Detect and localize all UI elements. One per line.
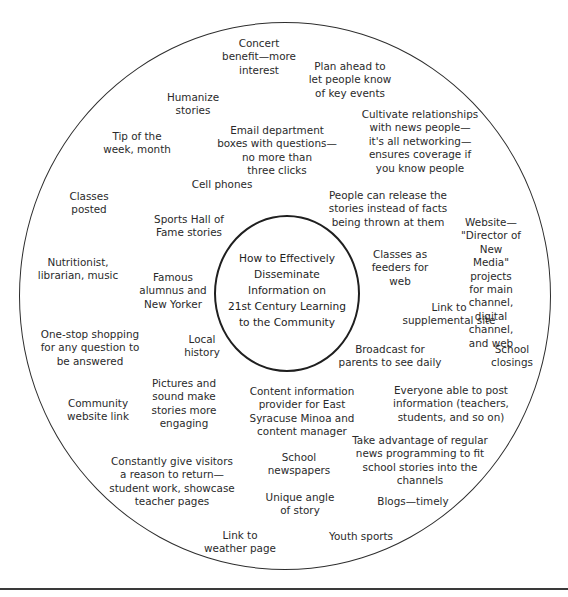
idea-cell-phones: Cell phones bbox=[192, 178, 253, 191]
idea-unique-angle: Unique angle of story bbox=[266, 491, 335, 518]
center-topic: How to Effectively Disseminate Informati… bbox=[214, 250, 360, 330]
idea-one-stop: One-stop shopping for any question to be… bbox=[41, 328, 140, 368]
idea-local-history: Local history bbox=[184, 333, 220, 360]
idea-link-supplemental: Link to supplemental site bbox=[403, 301, 496, 328]
idea-pictures-sound: Pictures and sound make stories more eng… bbox=[151, 377, 216, 431]
idea-everyone-post: Everyone able to post information (teach… bbox=[393, 384, 509, 424]
idea-tip-of-week: Tip of the week, month bbox=[103, 130, 171, 157]
idea-website-director: Website— "Director of New Media" project… bbox=[453, 216, 530, 350]
idea-sports-hall: Sports Hall of Fame stories bbox=[154, 213, 224, 240]
idea-classes-posted: Classes posted bbox=[69, 190, 108, 217]
idea-plan-ahead: Plan ahead to let people know of key eve… bbox=[309, 60, 392, 100]
idea-release-stories: People can release the stories instead o… bbox=[329, 189, 447, 229]
idea-content-provider: Content information provider for East Sy… bbox=[250, 385, 355, 439]
idea-concert: Concert benefit—more interest bbox=[222, 37, 296, 77]
idea-email-dept: Email department boxes with questions— n… bbox=[217, 124, 337, 178]
idea-youth-sports: Youth sports bbox=[329, 530, 393, 543]
idea-classes-feeders: Classes as feeders for web bbox=[372, 248, 429, 288]
idea-blogs: Blogs—timely bbox=[377, 495, 448, 508]
idea-link-weather: Link to weather page bbox=[204, 529, 276, 556]
bottom-divider bbox=[0, 588, 568, 590]
idea-nutritionist: Nutritionist, librarian, music bbox=[38, 256, 118, 283]
idea-constantly-give: Constantly give visitors a reason to ret… bbox=[109, 455, 235, 509]
idea-community-website: Community website link bbox=[67, 397, 129, 424]
idea-broadcast: Broadcast for parents to see daily bbox=[339, 343, 442, 370]
idea-school-closings: School closings bbox=[491, 343, 533, 370]
idea-school-newspapers: School newspapers bbox=[268, 451, 331, 478]
idea-humanize: Humanize stories bbox=[167, 91, 219, 118]
idea-cultivate: Cultivate relationships with news people… bbox=[362, 108, 478, 175]
idea-take-advantage: Take advantage of regular news programmi… bbox=[352, 434, 488, 488]
idea-famous-alumnus: Famous alumnus and New Yorker bbox=[139, 271, 206, 311]
